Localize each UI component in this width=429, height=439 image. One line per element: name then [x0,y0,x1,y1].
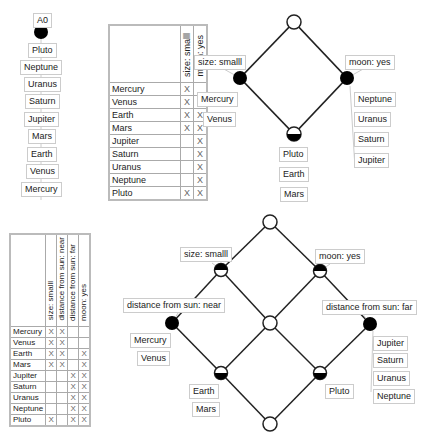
incidence-cell [57,370,68,381]
incidence-cell: X [68,414,79,426]
object-cell: Neptune [109,174,181,187]
incidence-cell: X [181,187,194,201]
object-cell: Venus [10,337,46,348]
chain-object-label: Jupiter [24,112,59,127]
lattice1-size-node[interactable] [233,71,247,85]
lattice2-earth-node[interactable] [215,367,228,380]
table-corner-cell [109,25,181,83]
incidence-cell [181,174,194,187]
object-label: Saturn [354,132,389,147]
object-label: Uranus [373,371,410,386]
table-row: VenusXX [10,337,90,348]
table-row: MarsXX [109,122,207,135]
lattice1-moon-node[interactable] [340,71,354,85]
lattice2-near-node[interactable] [165,316,179,330]
incidence-cell: X [181,109,194,122]
lattice1-top-node[interactable] [287,15,301,29]
object-label: Mars [192,402,220,417]
table-corner-cell [10,234,46,326]
lattice2-moon-node[interactable] [314,265,327,278]
chain-object-label: Saturn [25,94,60,109]
lattice1-bottom-node[interactable] [287,127,301,141]
attribute-header: size: smalll [46,234,57,326]
incidence-cell: X [79,403,91,414]
incidence-cell: X [57,348,68,359]
lattice2-pluto-node[interactable] [314,367,327,380]
incidence-cell [181,161,194,174]
chain-object-label: Neptune [20,60,62,75]
object-label: Earth [279,167,309,182]
attribute-header: moon: yes [79,234,91,326]
object-cell: Uranus [109,161,181,174]
chain-object-label: Pluto [28,43,57,58]
object-label: Mercury [130,333,171,348]
table-header-row: size: smalll moon: yes [109,25,207,83]
attribute-header: moon: yes [194,25,208,83]
table-row: MercuryXX [10,326,90,337]
incidence-cell: X [194,174,208,187]
object-label: Venus [137,351,170,366]
table-row: NeptuneXX [10,403,90,414]
attribute-header: distance from sun: near [57,234,68,326]
incidence-cell: X [68,403,79,414]
object-label: Venus [203,112,236,127]
incidence-cell [68,359,79,370]
object-cell: Earth [10,348,46,359]
incidence-cell: X [68,381,79,392]
lattice2-top-node[interactable] [263,215,277,229]
lattice2-middle-node[interactable] [263,316,277,330]
table-row: PlutoXXX [10,414,90,426]
object-cell: Mars [109,122,181,135]
incidence-cell [181,135,194,148]
table-row: MercuryX [109,83,207,96]
attribute-label: distance from sun: near [123,298,225,313]
object-label: Neptune [354,92,396,107]
table-row: UranusX [109,161,207,174]
lattice2-size-node[interactable] [215,264,228,277]
object-cell: Jupiter [109,135,181,148]
object-label: Jupiter [354,153,389,168]
object-cell: Mars [10,359,46,370]
object-cell: Saturn [10,381,46,392]
incidence-cell [181,148,194,161]
lattice2-bottom-node[interactable] [263,417,277,431]
table-row: NeptuneX [109,174,207,187]
object-label: Neptune [373,389,415,404]
object-label: Pluto [279,147,308,162]
table-row: EarthXXX [10,348,90,359]
incidence-cell [68,337,79,348]
incidence-cell: X [46,359,57,370]
attribute-header: distance from sun: far [68,234,79,326]
incidence-cell: X [46,348,57,359]
lattice2-far-node[interactable] [363,317,377,331]
incidence-cell [57,392,68,403]
incidence-cell: X [46,414,57,426]
table-row: VenusX [109,96,207,109]
attribute-label: size: smalll [194,55,246,70]
incidence-cell: X [57,326,68,337]
incidence-cell [79,326,91,337]
incidence-cell [46,403,57,414]
object-cell: Earth [109,109,181,122]
table-row: UranusXX [10,392,90,403]
chain-object-label: Earth [27,147,57,162]
incidence-cell [68,326,79,337]
chain-object-label: Mars [28,129,56,144]
incidence-cell: X [79,392,91,403]
incidence-cell [68,348,79,359]
attribute-label: size: smalll [180,247,232,262]
object-cell: Saturn [109,148,181,161]
incidence-cell: X [68,392,79,403]
incidence-cell: X [194,161,208,174]
chain-object-label: Venus [26,164,59,179]
incidence-cell: X [79,414,91,426]
incidence-cell: X [181,83,194,96]
attribute-label: moon: yes [345,55,395,70]
incidence-cell: X [79,348,91,359]
incidence-cell [57,403,68,414]
incidence-cell: X [181,122,194,135]
table-row: SaturnXX [10,381,90,392]
object-cell: Neptune [10,403,46,414]
incidence-cell: X [194,148,208,161]
attribute-label: distance from sun: far [322,300,417,315]
